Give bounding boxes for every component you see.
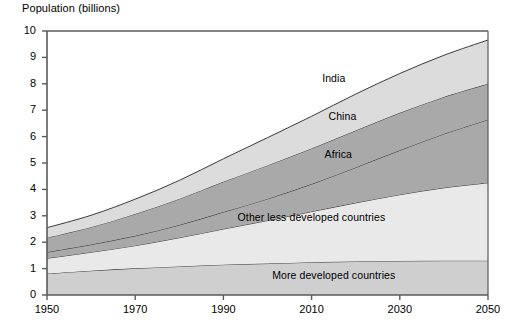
x-tick-label-2010: 2010 (290, 303, 334, 315)
y-tick-label-8: 8 (14, 77, 36, 89)
series-label-china: China (328, 110, 356, 122)
y-tick-label-7: 7 (14, 103, 36, 115)
x-tick-label-1970: 1970 (113, 303, 157, 315)
series-label-africa: Africa (325, 148, 352, 160)
y-tick-label-5: 5 (14, 156, 36, 168)
series-label-more-developed-countries: More developed countries (272, 269, 395, 281)
y-tick-label-6: 6 (14, 130, 36, 142)
y-tick-label-4: 4 (14, 182, 36, 194)
chart-plot-area (0, 0, 509, 331)
series-label-india: India (322, 72, 345, 84)
population-area-chart: Population (billions) 109876543210 19501… (0, 0, 509, 331)
y-tick-label-0: 0 (14, 288, 36, 300)
x-tick-label-1990: 1990 (201, 303, 245, 315)
series-label-other-less-developed-countries: Other less developed countries (238, 211, 386, 223)
y-tick-label-2: 2 (14, 235, 36, 247)
x-tick-label-2050: 2050 (466, 303, 509, 315)
y-tick-label-10: 10 (14, 24, 36, 36)
y-tick-label-3: 3 (14, 209, 36, 221)
x-tick-label-2030: 2030 (378, 303, 422, 315)
x-tick-label-1950: 1950 (25, 303, 69, 315)
y-tick-label-1: 1 (14, 262, 36, 274)
y-tick-label-9: 9 (14, 50, 36, 62)
